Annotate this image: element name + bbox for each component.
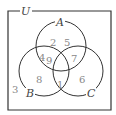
venn-diagram: U A B C 2 5 4 9 7 8 1 6 3 — [0, 0, 116, 115]
region-b-c: 1 — [57, 79, 63, 90]
set-label-b: B — [25, 87, 34, 100]
region-outside: 3 — [12, 84, 18, 95]
set-label-a: A — [55, 16, 64, 29]
region-a-only-1: 2 — [50, 37, 56, 48]
universe-label: U — [21, 5, 31, 18]
region-a-b-c: 9 — [46, 55, 52, 66]
region-b-only: 8 — [36, 74, 42, 85]
region-c-only: 6 — [79, 74, 85, 85]
region-a-only-2: 5 — [64, 37, 70, 48]
region-a-c: 7 — [71, 53, 77, 64]
set-label-c: C — [87, 87, 96, 100]
region-a-b: 4 — [39, 52, 45, 63]
